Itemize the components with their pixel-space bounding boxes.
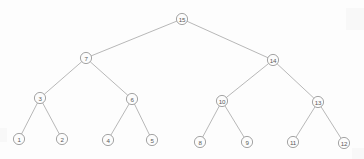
tree-node-6[interactable]: 6: [126, 93, 137, 104]
tree-node-2[interactable]: 2: [56, 133, 67, 144]
tree-edge-14-13: [277, 64, 314, 98]
tree-node-1[interactable]: 1: [13, 133, 24, 144]
tree-node-15[interactable]: 15: [176, 13, 187, 24]
tree-edge-7-6: [90, 62, 128, 96]
tree-edge-14-10: [226, 64, 268, 98]
tree-node-8[interactable]: 8: [194, 136, 205, 147]
tree-node-4[interactable]: 4: [102, 134, 113, 145]
node-label-15: 15: [179, 16, 186, 23]
binary-tree-canvas: 157143610131245891112: [0, 0, 364, 159]
tree-edge-10-9: [225, 106, 244, 137]
binary-tree-figure: 157143610131245891112: [0, 0, 364, 159]
node-label-10: 10: [219, 98, 226, 105]
tree-node-5[interactable]: 5: [146, 134, 157, 145]
tree-node-14[interactable]: 14: [267, 54, 278, 65]
tree-node-3[interactable]: 3: [34, 92, 45, 103]
tree-edge-6-5: [134, 104, 149, 135]
node-label-12: 12: [341, 140, 348, 147]
tree-node-9[interactable]: 9: [241, 136, 252, 147]
tree-node-11[interactable]: 11: [287, 136, 298, 147]
tree-edge-3-2: [43, 103, 60, 134]
node-label-14: 14: [270, 57, 277, 64]
tree-edge-15-7: [91, 21, 177, 56]
node-layer: 157143610131245891112: [13, 13, 349, 148]
tree-edge-6-4: [111, 104, 129, 135]
tree-node-13[interactable]: 13: [312, 96, 323, 107]
tree-node-10[interactable]: 10: [216, 95, 227, 106]
tree-node-12[interactable]: 12: [338, 137, 349, 148]
node-label-13: 13: [315, 99, 322, 106]
tree-edge-3-1: [22, 103, 38, 134]
tree-edge-7-3: [44, 62, 82, 95]
edge-layer: [22, 21, 341, 138]
tree-edge-10-8: [203, 106, 220, 137]
tree-node-7[interactable]: 7: [80, 52, 91, 63]
tree-edge-15-14: [187, 21, 268, 57]
node-label-11: 11: [290, 139, 297, 146]
tree-edge-13-12: [321, 107, 341, 139]
tree-edge-13-11: [296, 107, 315, 138]
